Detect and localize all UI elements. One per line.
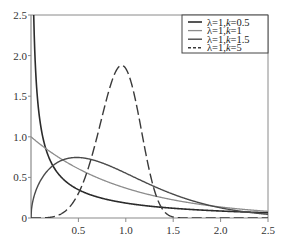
y-tick-label: 2.5 <box>13 9 27 21</box>
y-tick-label: 1.5 <box>13 90 27 102</box>
x-tick-label: 0.5 <box>72 224 86 236</box>
x-axis-ticks: 0.51.01.52.02.5 <box>72 218 276 236</box>
y-tick-label: 0.5 <box>13 171 27 183</box>
y-tick-label: 1.0 <box>13 131 27 143</box>
x-tick-label: 2.5 <box>261 224 275 236</box>
legend-label: λ=1,k=5 <box>207 42 242 53</box>
x-tick-label: 2.0 <box>214 224 228 236</box>
y-axis-ticks: 00.51.01.52.02.5 <box>13 9 31 224</box>
legend: λ=1,k=0.5λ=1,k=1λ=1,k=1.5λ=1,k=5 <box>182 15 268 53</box>
x-tick-label: 1.0 <box>119 224 133 236</box>
x-tick-label: 1.5 <box>166 224 180 236</box>
y-tick-label: 0 <box>22 212 28 224</box>
weibull-pdf-chart: 0.51.01.52.02.5 00.51.01.52.02.5 λ=1,k=0… <box>0 0 281 245</box>
y-tick-label: 2.0 <box>13 50 27 62</box>
